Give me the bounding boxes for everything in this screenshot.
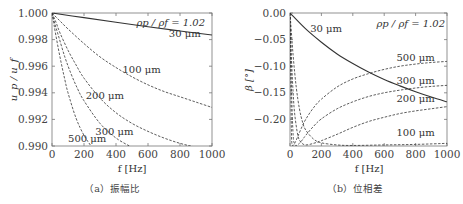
series-label: 500 μm	[68, 133, 107, 144]
y-tick-label: 0.994	[18, 86, 48, 98]
x-tick-label: 800	[170, 148, 190, 160]
series-label: 200 μm	[86, 90, 125, 101]
y-tick-label: −0.05	[254, 33, 286, 45]
series-label: 30 μm	[169, 28, 201, 39]
series-label: 200 μm	[396, 93, 435, 104]
y-tick-label: −0.20	[254, 113, 286, 125]
caption: （a）振幅比	[84, 183, 140, 194]
figure: 020040060080010000.9900.9920.9940.9960.9…	[0, 0, 463, 204]
series-label: 300 μm	[396, 75, 435, 86]
series-label: 100 μm	[396, 127, 435, 138]
y-axis-label: β [°]	[243, 69, 254, 92]
y-tick-label: 0.996	[18, 60, 48, 72]
phase-difference-chart: 020040060080010000.00−0.05−0.10−0.15−0.2…	[243, 7, 460, 195]
density-ratio-annotation: ρp / ρf = 1.02	[135, 17, 205, 28]
x-tick-label: 800	[406, 148, 426, 160]
amplitude-ratio-chart: 020040060080010000.9900.9920.9940.9960.9…	[8, 7, 225, 195]
x-tick-label: 200	[74, 148, 94, 160]
y-axis-label: u_p / u_f	[8, 56, 20, 101]
x-tick-label: 200	[311, 148, 331, 160]
y-tick-label: 0.992	[18, 113, 48, 125]
y-tick-label: −0.15	[254, 86, 286, 98]
caption: （b）位相差	[327, 183, 383, 194]
x-tick-label: 400	[106, 148, 126, 160]
x-tick-label: 0	[287, 148, 294, 160]
x-tick-label: 600	[138, 148, 158, 160]
y-tick-label: 0.990	[18, 140, 48, 152]
series-label: 30 μm	[310, 23, 342, 34]
x-tick-label: 1000	[434, 148, 461, 160]
y-tick-label: 0.00	[263, 7, 286, 19]
x-tick-label: 1000	[199, 148, 226, 160]
series-label: 100 μm	[122, 64, 161, 75]
series-label: 500 μm	[396, 52, 435, 63]
y-tick-label: −0.10	[254, 60, 286, 72]
x-tick-label: 400	[343, 148, 363, 160]
x-tick-label: 0	[49, 148, 56, 160]
x-axis-label: f [Hz]	[118, 163, 147, 174]
x-tick-label: 600	[374, 148, 394, 160]
y-tick-label: 0.998	[18, 33, 48, 45]
density-ratio-annotation: ρp / ρf = 1.02	[375, 18, 445, 29]
y-tick-label: 1.000	[18, 7, 48, 19]
x-axis-label: f [Hz]	[355, 163, 384, 174]
